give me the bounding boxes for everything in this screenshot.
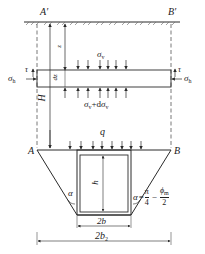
equals-sign: = [139,193,144,202]
fraction-pi-over-4: π 4 [145,188,149,207]
sigma-subscript: h [188,78,191,84]
height-label-H-text: H [37,94,47,101]
side-stress-arrows [26,69,182,79]
point-label-B: B [174,146,180,156]
sigma-v-top-label: σv [97,50,104,60]
numerator-phi-m: ϕm [160,187,169,196]
tau-right-label: τ [178,66,181,74]
trench-width-label-2b2: 2b2 [95,231,108,242]
sigma-v-bottom-label: σv+dσv [84,100,108,110]
minus-sign: − [152,193,157,202]
point-label-A: A [28,146,34,156]
load-label-q: q [100,127,105,137]
height-label-H: H [38,93,45,103]
q-load-arrows [70,141,141,149]
trench-width-main: 2b [95,230,105,241]
denominator-2: 2 [162,199,166,207]
plus-d-text: +d [91,99,101,109]
alpha-symbol: α [133,193,138,202]
denominator-4: 4 [145,199,149,207]
depth-label-z-text: z [56,45,63,48]
angle-label-left: α [68,189,73,198]
box-inner [80,155,128,212]
tau-left-label: τ [25,66,28,74]
sigma-h-left-label: σh [8,74,15,84]
sigma-v-top-arrows [78,60,126,69]
sigma-subscript: v [101,54,104,60]
point-label-A-prime: A′ [40,7,48,17]
box-height-label-h: h [93,178,98,187]
phi-subscript: m [164,190,169,196]
box-height-label-text: h [91,180,100,185]
ground-surface [24,22,180,25]
fraction-phi-over-2: ϕm 2 [160,187,169,207]
sigma-subscript: v [105,104,108,110]
box-outer [77,150,131,215]
box-width-label-2b: 2b [97,217,106,226]
sigma-h-right-label: σh [184,74,191,84]
sigma-v-bottom-arrows [65,88,126,98]
thickness-label-dz: dz [52,74,58,81]
angle-formula-right: α = π 4 − ϕm 2 [133,187,169,207]
point-label-B-prime: B′ [168,7,176,17]
sigma-subscript: h [12,78,15,84]
thickness-label-text: dz [52,74,59,80]
trench-width-subscript: 2 [105,236,108,242]
depth-label-z: z [58,43,61,50]
numerator-pi: π [145,188,149,196]
